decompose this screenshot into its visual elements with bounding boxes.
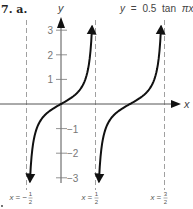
asymptote-label: x=12 xyxy=(81,191,99,205)
y-tick-label: −3 xyxy=(67,173,79,184)
stray-dot xyxy=(1,205,3,207)
asymptote-labels: x= −12x=12x=32 xyxy=(9,191,168,205)
y-tick-label: 3 xyxy=(47,25,53,36)
svg-text:3: 3 xyxy=(164,191,168,197)
tangent-graph: x y 321−1−2−3 y = 0.5 tan πx x= −12x=12x… xyxy=(0,0,193,209)
asymptote-label: x= −12 xyxy=(9,191,33,205)
svg-text:1: 1 xyxy=(29,191,33,197)
eq-lhs: y xyxy=(119,3,126,14)
y-axis-label: y xyxy=(57,2,65,14)
x-axis-label: x xyxy=(183,98,190,110)
svg-text:2: 2 xyxy=(95,199,99,205)
svg-text:x=: x= xyxy=(150,193,162,202)
eq-arg: πx xyxy=(182,3,193,14)
x-axis-arrow-icon xyxy=(171,100,181,108)
svg-text:1: 1 xyxy=(95,191,99,197)
y-axis-arrow-icon xyxy=(57,17,65,28)
y-tick-label: 1 xyxy=(47,74,53,85)
y-tick-label: 2 xyxy=(47,50,53,61)
svg-text:x=: x= xyxy=(81,193,93,202)
y-tick-label: −2 xyxy=(67,148,79,159)
eq-coef: 0.5 xyxy=(142,3,156,14)
equation-label: y = 0.5 tan πx xyxy=(119,3,193,14)
svg-text:2: 2 xyxy=(164,199,168,205)
eq-fn: tan xyxy=(162,3,176,14)
svg-text:2: 2 xyxy=(29,199,33,205)
asymptotes xyxy=(27,20,165,190)
svg-text:x= −: x= − xyxy=(9,193,28,202)
asymptote-label: x=32 xyxy=(150,191,168,205)
y-tick-label: −1 xyxy=(67,124,79,135)
